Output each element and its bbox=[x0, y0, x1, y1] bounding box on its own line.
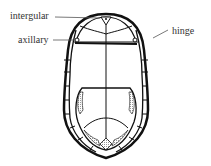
anal-scute-shading bbox=[100, 138, 112, 150]
axillary-scute-left bbox=[75, 38, 79, 42]
label-axillary: axillary bbox=[18, 35, 49, 45]
label-hinge: hinge bbox=[172, 26, 194, 36]
hinge-leader bbox=[153, 30, 168, 38]
intergular-leader bbox=[55, 17, 100, 18]
label-intergular: intergular bbox=[10, 11, 49, 21]
